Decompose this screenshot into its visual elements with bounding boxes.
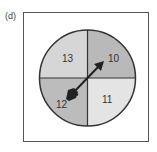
sector-label-10: 10 — [108, 53, 120, 64]
sector-label-11: 11 — [102, 94, 113, 105]
spinner: 13 10 11 12 — [0, 0, 157, 152]
sector-label-13: 13 — [62, 53, 74, 64]
sector-label-12: 12 — [56, 99, 68, 110]
